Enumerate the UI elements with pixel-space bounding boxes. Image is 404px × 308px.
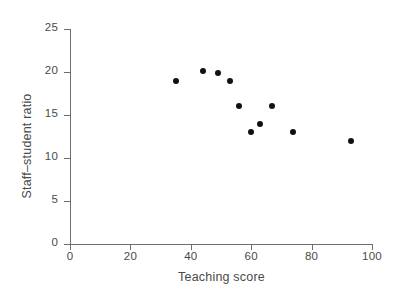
x-tick-label-80: 80: [292, 250, 332, 262]
data-point: [173, 78, 179, 84]
x-axis-title: Teaching score: [70, 270, 373, 284]
data-point: [200, 68, 206, 74]
y-axis-title: Staff–student ratio: [20, 39, 40, 254]
x-tick-label-20: 20: [110, 250, 150, 262]
x-tick-label-100: 100: [352, 250, 392, 262]
data-point: [248, 129, 254, 135]
caption-sliver: [0, 301, 404, 308]
data-point: [257, 121, 263, 127]
data-point: [215, 70, 221, 76]
plot-area: [70, 29, 372, 244]
data-point: [227, 78, 233, 84]
x-tick-label-60: 60: [231, 250, 271, 262]
scatter-plot-figure: 0510152025 020406080100 Staff–student ra…: [0, 0, 404, 308]
x-tick-label-40: 40: [171, 250, 211, 262]
x-tick-label-0: 0: [50, 250, 90, 262]
data-point: [348, 138, 354, 144]
data-point: [290, 129, 296, 135]
data-point: [236, 103, 242, 109]
x-axis-line: [70, 244, 373, 245]
data-point: [269, 103, 275, 109]
y-tick-label-25: 25: [18, 21, 58, 33]
